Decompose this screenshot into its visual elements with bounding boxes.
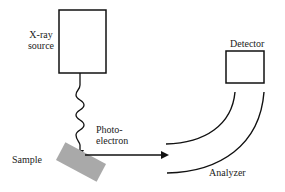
- photoelectron-arrowhead: [161, 151, 169, 159]
- sample-label: Sample: [12, 154, 42, 165]
- xray-label-line2: source: [25, 40, 57, 51]
- photo-label-line1: Photo-: [96, 124, 128, 135]
- analyzer-label: Analyzer: [209, 167, 246, 178]
- xray-source-box: [59, 10, 106, 73]
- analyzer-inner-arc: [166, 92, 235, 144]
- detector-box: [226, 51, 264, 83]
- photo-label-line2: electron: [96, 135, 128, 146]
- xray-wave: [76, 73, 84, 150]
- xray-source-label: X-ray source: [25, 29, 57, 51]
- analyzer-outer-arc: [167, 92, 264, 173]
- photoelectron-label: Photo- electron: [96, 124, 128, 146]
- xray-label-line1: X-ray: [25, 29, 57, 40]
- detector-label: Detector: [230, 38, 264, 49]
- sample-block: [56, 142, 106, 181]
